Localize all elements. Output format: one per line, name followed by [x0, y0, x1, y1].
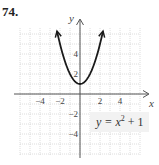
- x-tick-label: −4: [35, 96, 45, 106]
- y-tick-label: 2: [74, 69, 79, 79]
- x-axis-label: x: [148, 97, 154, 109]
- y-tick-label: 4: [74, 49, 79, 59]
- x-tick-label: 2: [98, 96, 103, 106]
- y-axis-label: y: [68, 12, 74, 24]
- axes: [14, 19, 149, 158]
- equation-label: y = x2 + 1: [90, 112, 149, 132]
- y-tick-label: −4: [68, 129, 78, 139]
- graph: x y −4−22442−2−4 y = x2 + 1: [0, 0, 159, 165]
- y-tick-label: −2: [68, 109, 78, 119]
- equation-text: y = x2 + 1: [95, 114, 144, 129]
- x-tick-label: −2: [55, 96, 65, 106]
- x-tick-label: 4: [118, 96, 123, 106]
